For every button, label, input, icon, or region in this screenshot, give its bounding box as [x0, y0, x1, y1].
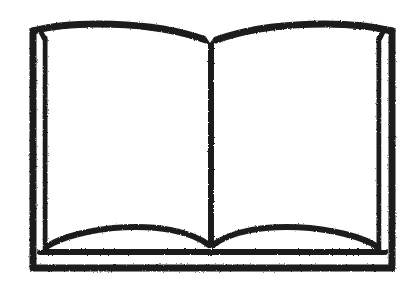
open-book-icon	[0, 0, 420, 297]
right-page-gap-highlight	[382, 40, 386, 250]
left-page-gap-highlight	[39, 40, 43, 250]
book-illustration-canvas: Black and white line drawing of an open …	[0, 0, 420, 297]
bottom-gap-highlight	[43, 256, 383, 262]
